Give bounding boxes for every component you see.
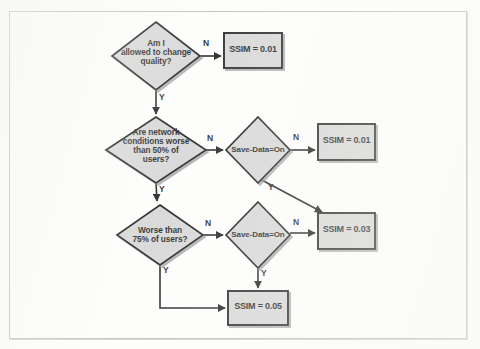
edge-label-savedata2-no: N bbox=[293, 217, 299, 227]
edge-label-allowed-yes: Y bbox=[159, 92, 165, 102]
result-ssim-005-shape bbox=[228, 291, 288, 325]
edge-label-worse75-no: N bbox=[205, 218, 211, 228]
flowchart-canvas bbox=[0, 0, 480, 349]
edge-label-network50-yes: Y bbox=[159, 184, 165, 194]
node-group bbox=[106, 22, 375, 325]
decision-allowed-shape bbox=[112, 22, 200, 90]
result-ssim-001-mid-shape bbox=[318, 124, 375, 160]
edge-group bbox=[156, 56, 322, 308]
decision-save-data-1-shape bbox=[226, 117, 290, 183]
result-ssim-003-shape bbox=[318, 213, 375, 249]
edge-worse75-yes bbox=[160, 265, 225, 308]
edge-label-savedata2-yes: Y bbox=[261, 268, 267, 278]
decision-worse75-shape bbox=[117, 205, 203, 265]
figure-page: Am I allowed to change quality? Are netw… bbox=[0, 0, 480, 349]
result-ssim-001-top-shape bbox=[224, 33, 282, 68]
decision-network50-shape bbox=[106, 117, 206, 183]
edge-label-savedata1-no: N bbox=[293, 132, 299, 142]
decision-save-data-2-shape bbox=[226, 202, 290, 268]
edge-label-allowed-no: N bbox=[203, 38, 209, 48]
edge-label-savedata1-yes: Y bbox=[268, 182, 274, 192]
edge-label-worse75-yes: Y bbox=[163, 265, 169, 275]
edge-network50-yes bbox=[156, 183, 157, 201]
edge-label-network50-no: N bbox=[207, 133, 213, 143]
